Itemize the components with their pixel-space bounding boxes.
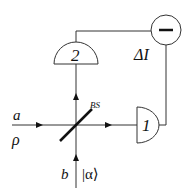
- arrow-up-icon: [73, 93, 79, 100]
- label-input-a: a: [13, 107, 21, 123]
- label-beam-splitter: BS: [90, 100, 100, 110]
- label-detector-2: 2: [71, 46, 80, 65]
- arrow-right-icon: [36, 122, 43, 128]
- label-delta-i: ΔI: [133, 46, 149, 63]
- label-input-b: b: [61, 166, 69, 182]
- label-state-alpha: |α⟩: [82, 166, 99, 182]
- wire-detector-2: [76, 31, 151, 42]
- wire-detector-1: [159, 45, 166, 125]
- homodyne-diagram: a ρ b |α⟩ BS 1 2 ΔI: [0, 0, 190, 196]
- arrow-up-icon: [73, 154, 79, 161]
- label-detector-1: 1: [142, 116, 151, 135]
- arrow-right-icon: [105, 122, 112, 128]
- label-state-rho: ρ: [11, 131, 20, 149]
